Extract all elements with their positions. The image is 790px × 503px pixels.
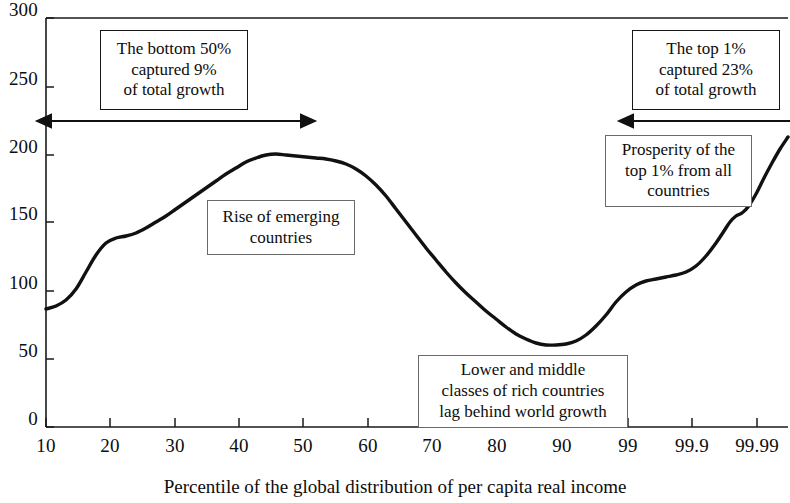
y-tick-label-100: 100 [0,273,38,292]
x-tick-label-40: 40 [209,436,269,455]
x-tick-label-30: 30 [145,436,205,455]
x-tick-label-50: 50 [273,436,333,455]
x-tick-label-10: 10 [16,436,76,455]
y-tick-label-150: 150 [0,204,38,223]
annotation-lower-middle: Lower and middle classes of rich countri… [418,355,628,428]
x-tick-label-90: 90 [532,436,592,455]
x-tick-marks [46,418,757,427]
annotation-bottom-50: The bottom 50% captured 9% of total grow… [100,30,248,110]
y-tick-label-250: 250 [0,69,38,88]
x-tick-label-20: 20 [80,436,140,455]
y-tick-label-300: 300 [0,0,38,19]
x-axis-title: Percentile of the global distribution of… [0,476,790,498]
x-tick-label-99: 99 [598,436,658,455]
x-tick-label-70: 70 [402,436,462,455]
y-tick-marks [46,18,54,427]
x-tick-label-80: 80 [467,436,527,455]
x-tick-label-99-99: 99.99 [718,436,790,455]
annotation-top-1-growth: The top 1% captured 23% of total growth [632,30,780,110]
x-tick-label-60: 60 [338,436,398,455]
annotation-prosperity-top-1: Prosperity of the top 1% from all countr… [605,135,752,207]
elephant-curve-chart: 0 50 100 150 200 250 300 10 20 30 40 50 … [0,0,790,503]
y-tick-label-0: 0 [0,409,38,428]
annotation-rise-emerging: Rise of emerging countries [207,200,355,255]
x-tick-label-99-9: 99.9 [657,436,727,455]
y-tick-label-50: 50 [0,341,38,360]
y-tick-label-200: 200 [0,137,38,156]
